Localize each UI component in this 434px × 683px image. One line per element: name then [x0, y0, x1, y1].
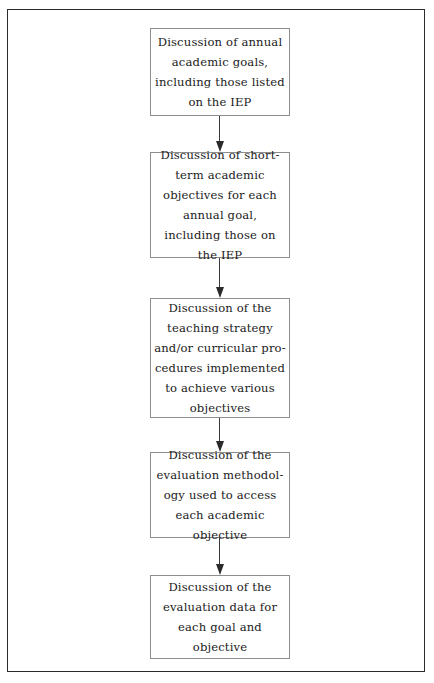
flowchart-node-2: Discussion of short- term academic objec… — [150, 152, 290, 258]
flowchart-node-1: Discussion of annual academic goals, inc… — [150, 28, 290, 116]
flowchart-node-4-label: Discussion of the evaluation methodol- o… — [151, 445, 289, 545]
connector-line-4 — [219, 538, 220, 565]
flowchart-page: Discussion of annual academic goals, inc… — [0, 0, 434, 683]
flowchart-node-1-label: Discussion of annual academic goals, inc… — [151, 32, 289, 112]
flowchart-node-4: Discussion of the evaluation methodol- o… — [150, 452, 290, 538]
connector-arrow-2 — [219, 258, 221, 298]
flowchart-node-3-label: Discussion of the teaching strategy and/… — [151, 298, 289, 418]
connector-arrow-4 — [219, 538, 221, 575]
arrow-down-icon — [216, 564, 224, 575]
connector-line-2 — [219, 258, 220, 288]
flowchart-node-5-label: Discussion of the evaluation data for ea… — [151, 577, 289, 657]
flowchart-node-3: Discussion of the teaching strategy and/… — [150, 298, 290, 418]
connector-line-3 — [219, 418, 220, 442]
connector-line-1 — [219, 116, 220, 142]
arrow-down-icon — [216, 287, 224, 298]
flowchart-node-5: Discussion of the evaluation data for ea… — [150, 575, 290, 659]
flowchart-node-2-label: Discussion of short- term academic objec… — [151, 145, 289, 265]
flowchart-diagram: Discussion of annual academic goals, inc… — [0, 0, 434, 683]
